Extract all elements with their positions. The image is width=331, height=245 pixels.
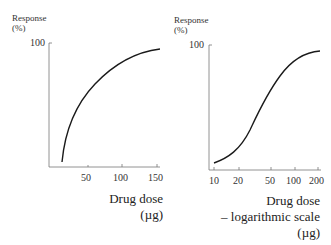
right-x-label-line3: (µg) [221,225,320,241]
right-x-tick-label-50: 50 [265,175,275,186]
left-chart-axes [49,43,160,167]
left-response-curve [62,49,160,162]
right-y-label-line2: (%) [174,25,209,35]
right-y-axis-label: Response (%) [174,15,209,35]
right-chart-axes [209,45,321,170]
right-x-tick-label-10: 10 [209,175,219,186]
left-x-label-line2: (µg) [109,207,163,223]
left-y-label-line2: (%) [12,23,47,33]
right-x-label-line1: Drug dose [221,193,320,209]
right-y-label-line1: Response [174,15,209,25]
left-x-tick-label-50: 50 [81,172,91,183]
left-y-label-line1: Response [12,13,47,23]
right-y-tick-label-100: 100 [189,39,204,50]
left-y-axis-label: Response (%) [12,13,47,33]
left-y-tick-label-100: 100 [30,37,45,48]
left-x-axis-label: Drug dose (µg) [109,191,163,223]
right-x-tick-label-20: 20 [233,175,243,186]
left-x-tick-label-150: 150 [148,172,163,183]
right-x-label-line2: – logarithmic scale [221,209,320,225]
right-x-tick-label-200: 200 [309,175,324,186]
right-x-axis-label: Drug dose – logarithmic scale (µg) [221,193,320,241]
left-x-tick-label-100: 100 [113,172,128,183]
right-response-curve [214,51,320,163]
left-x-label-line1: Drug dose [109,191,163,207]
right-x-tick-label-100: 100 [286,175,301,186]
